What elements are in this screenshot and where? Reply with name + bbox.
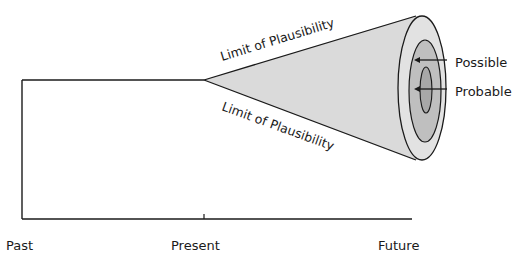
inner-ring-probable [420,67,432,113]
present-label: Present [171,238,220,253]
past-label: Past [6,238,33,253]
future-label: Future [378,238,419,253]
futures-cone-diagram: Possible Probable Limit of Plausibility … [0,0,532,264]
probable-label: Probable [455,84,512,99]
possible-label: Possible [455,55,507,70]
